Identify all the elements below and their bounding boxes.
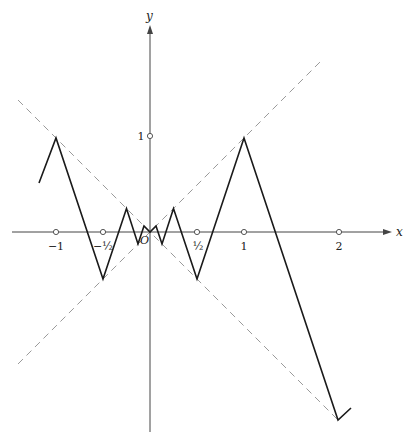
x-tick-marker-neg-half <box>100 229 105 234</box>
x-tick-marker-2 <box>336 229 341 234</box>
x-tick-label-neg-half: −½ <box>93 240 113 253</box>
y-axis-arrow-icon <box>147 25 153 34</box>
x-tick-marker-neg-1 <box>53 229 58 234</box>
x-axis-arrow-icon <box>383 229 392 235</box>
x-tick-label-2: 2 <box>336 240 343 253</box>
zigzag-curve <box>39 138 351 420</box>
guide-line-y-equals-x <box>18 62 320 364</box>
y-axis-label: y <box>145 9 153 23</box>
x-tick-marker-1 <box>241 229 246 234</box>
x-tick-label-half: ½ <box>193 240 204 253</box>
x-tick-marker-half <box>194 229 199 234</box>
x-tick-label-neg-1: −1 <box>48 240 64 253</box>
y-tick-marker-1 <box>147 133 152 138</box>
guide-line-y-equals-neg-x <box>18 100 338 420</box>
x-tick-label-1: 1 <box>241 240 248 253</box>
y-tick-label-1: 1 <box>138 130 145 143</box>
x-axis-label: x <box>396 225 403 239</box>
function-graph-figure: x y −1 −½ ½ 1 2 1 O <box>0 0 416 443</box>
origin-label: O <box>140 234 149 247</box>
